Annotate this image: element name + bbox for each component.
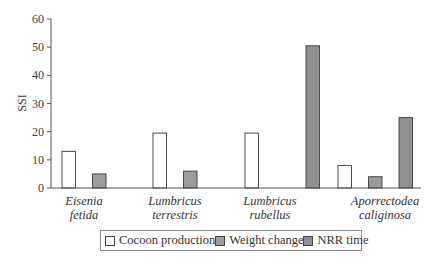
- legend-item-cocoon-production: Cocoon production: [105, 233, 215, 248]
- bar-nrr-time: [306, 46, 320, 188]
- y-tick-label: 20: [32, 125, 44, 139]
- category-label: fetida: [70, 208, 98, 222]
- legend-swatch: [105, 236, 115, 246]
- legend-label: NRR time: [317, 233, 368, 248]
- legend: Cocoon production Weight change NRR time: [100, 230, 362, 251]
- category-label: Lumbricus: [147, 194, 202, 208]
- category-label: terrestris: [152, 208, 198, 222]
- bar-chart: 0102030405060 EiseniafetidaLumbricusterr…: [0, 0, 433, 267]
- category-label: Lumbricus: [242, 194, 297, 208]
- category-labels: EiseniafetidaLumbricusterrestrisLumbricu…: [64, 194, 419, 222]
- bar-cocoon-production: [153, 133, 167, 188]
- bar-weight-change: [93, 174, 107, 188]
- bar-weight-change: [184, 171, 198, 188]
- legend-swatch: [303, 236, 313, 246]
- category-label: Eisenia: [64, 194, 103, 208]
- legend-label: Cocoon production: [119, 233, 215, 248]
- category-label: caliginosa: [359, 208, 411, 222]
- y-tick-label: 30: [32, 97, 44, 111]
- legend-label: Weight change: [229, 233, 303, 248]
- bar-cocoon-production: [338, 165, 352, 188]
- bar-nrr-time: [399, 118, 413, 188]
- y-tick-label: 60: [32, 12, 44, 26]
- y-tick-label: 0: [38, 181, 44, 195]
- legend-item-nrr-time: NRR time: [303, 233, 368, 248]
- category-label: rubellus: [250, 208, 291, 222]
- bar-cocoon-production: [62, 151, 76, 188]
- bar-cocoon-production: [245, 133, 259, 188]
- legend-swatch: [215, 236, 225, 246]
- bars: [62, 46, 413, 188]
- y-axis-title: SSI: [15, 94, 29, 111]
- y-tick-label: 40: [32, 68, 44, 82]
- y-tick-label: 50: [32, 40, 44, 54]
- y-tick-label: 10: [32, 153, 44, 167]
- y-axis-ticks: 0102030405060: [32, 12, 51, 195]
- category-label: Aporrectodea: [350, 194, 419, 208]
- legend-item-weight-change: Weight change: [215, 233, 303, 248]
- bar-weight-change: [369, 177, 383, 188]
